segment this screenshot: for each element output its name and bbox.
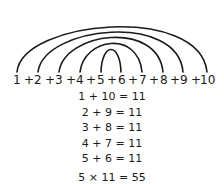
number-8: 8	[160, 73, 168, 87]
pairing-arcs	[0, 0, 224, 80]
number-7: 7	[139, 73, 147, 87]
plus-sign: +	[128, 73, 138, 87]
number-6: 6	[118, 73, 126, 87]
number-10: 10	[200, 73, 215, 87]
pair-equations: 1 + 10 = 11 2 + 9 = 11 3 + 8 = 11 4 + 7 …	[0, 89, 224, 183]
arc-5-6	[101, 50, 121, 73]
equation-pair-5: 5 + 6 = 11	[0, 151, 224, 167]
plus-sign: +	[149, 73, 159, 87]
number-5: 5	[97, 73, 105, 87]
equation-pair-1: 1 + 10 = 11	[0, 89, 224, 105]
number-3: 3	[55, 73, 63, 87]
equation-pair-3: 3 + 8 = 11	[0, 120, 224, 136]
plus-sign: +	[24, 73, 34, 87]
plus-sign: +	[107, 73, 117, 87]
equation-pair-2: 2 + 9 = 11	[0, 105, 224, 121]
number-1: 1	[13, 73, 21, 87]
arc-4-7	[80, 43, 142, 72]
arc-3-8	[59, 37, 163, 72]
plus-sign: +	[86, 73, 96, 87]
plus-sign: +	[45, 73, 55, 87]
result-equation: 5 × 11 = 55	[0, 170, 224, 184]
equation-pair-4: 4 + 7 = 11	[0, 136, 224, 152]
number-2: 2	[34, 73, 42, 87]
number-sequence: 1 + 2 + 3 + 4 + 5 + 6 + 7 + 8 + 9 + 10	[0, 73, 224, 89]
plus-sign: +	[66, 73, 76, 87]
number-9: 9	[180, 73, 188, 87]
plus-sign: +	[170, 73, 180, 87]
number-4: 4	[76, 73, 84, 87]
